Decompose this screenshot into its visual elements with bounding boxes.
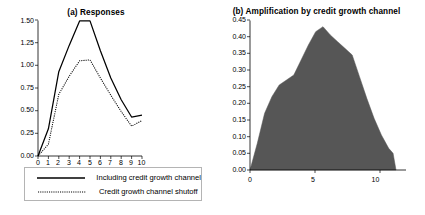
panel-a-xtick-10: 10 bbox=[135, 159, 148, 166]
panel-b-ytick-9: 0.45 bbox=[216, 16, 246, 23]
panel-b-ytick-6: 0.30 bbox=[216, 66, 246, 73]
legend-item-shutoff: Credit growth channel shutoff bbox=[25, 185, 201, 198]
panel-b-y-tickmarks bbox=[247, 20, 250, 170]
legend-item-including: Including credit growth channel bbox=[25, 171, 201, 184]
panel-b-plot-area bbox=[250, 20, 396, 170]
panel-a-ytick-2: 0.50 bbox=[6, 106, 34, 113]
panel-a-plot-area bbox=[38, 20, 142, 156]
legend-dotted-line-icon bbox=[25, 189, 99, 195]
series-amplification-area bbox=[250, 27, 396, 170]
panel-a-legend: Including credit growth channel Credit g… bbox=[24, 167, 202, 201]
panel-a-ytick-4: 1.00 bbox=[6, 61, 34, 68]
panel-a-ytick-5: 1.25 bbox=[6, 39, 34, 46]
panel-b-title: (b) Amplification by credit growth chann… bbox=[208, 7, 425, 16]
panel-b-xtick-0: 0 bbox=[244, 176, 256, 183]
legend-label-including: Including credit growth channel bbox=[96, 173, 201, 182]
panel-b-svg bbox=[250, 20, 396, 170]
panel-b-ytick-4: 0.20 bbox=[216, 99, 246, 106]
panel-b-ytick-0: 0.00 bbox=[216, 166, 246, 173]
panel-a-responses: (a) Responses 0.00 0.25 0.50 0.75 1.00 1… bbox=[0, 0, 208, 215]
panel-b-xtick-5: 5 bbox=[307, 176, 319, 183]
panel-a-title: (a) Responses bbox=[6, 8, 186, 17]
figure-container: (a) Responses 0.00 0.25 0.50 0.75 1.00 1… bbox=[0, 0, 425, 215]
panel-a-axes bbox=[38, 21, 142, 157]
legend-label-shutoff: Credit growth channel shutoff bbox=[99, 187, 198, 196]
panel-a-ytick-1: 0.25 bbox=[6, 129, 34, 136]
panel-b-xtick-10: 10 bbox=[369, 176, 382, 183]
panel-a-svg bbox=[38, 20, 142, 156]
panel-a-ytick-3: 0.75 bbox=[6, 84, 34, 91]
panel-b-ytick-5: 0.25 bbox=[216, 83, 246, 90]
panel-a-ytick-0: 0.00 bbox=[6, 152, 34, 159]
panel-a-ytick-6: 1.50 bbox=[6, 17, 34, 24]
panel-b-ytick-2: 0.10 bbox=[216, 133, 246, 140]
series-including-credit-growth-channel bbox=[38, 21, 142, 156]
panel-b-ytick-3: 0.15 bbox=[216, 116, 246, 123]
panel-a-y-tickmarks bbox=[35, 20, 38, 156]
panel-b-ytick-8: 0.40 bbox=[216, 33, 246, 40]
legend-solid-line-icon bbox=[25, 175, 96, 181]
panel-b-x-tickmarks bbox=[250, 170, 380, 173]
panel-b-ytick-1: 0.05 bbox=[216, 149, 246, 156]
panel-b-ytick-7: 0.35 bbox=[216, 49, 246, 56]
panel-b-amplification: (b) Amplification by credit growth chann… bbox=[208, 0, 425, 215]
